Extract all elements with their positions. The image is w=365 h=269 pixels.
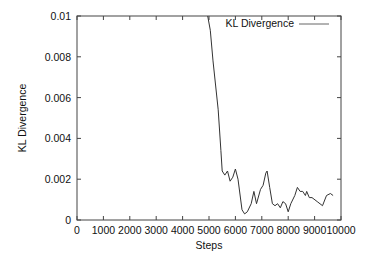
- y-tick-label: 0.002: [45, 173, 71, 185]
- plot-frame: [77, 16, 341, 220]
- y-tick-label: 0.006: [45, 92, 71, 104]
- x-tick-label: 6000: [224, 224, 248, 236]
- x-axis-label: Steps: [196, 239, 223, 251]
- y-axis-label: KL Divergence: [16, 84, 28, 153]
- kl-divergence-chart: 0100020003000400050006000700080009000100…: [0, 0, 365, 269]
- x-tick-label: 8000: [277, 224, 301, 236]
- x-tick-label: 0: [74, 224, 80, 236]
- legend: KL Divergence: [226, 17, 329, 29]
- x-tick-label: 2000: [118, 224, 142, 236]
- y-tick-label: 0.004: [45, 132, 71, 144]
- x-tick-label: 7000: [250, 224, 274, 236]
- x-tick-label: 5000: [197, 224, 221, 236]
- legend-label: KL Divergence: [226, 17, 295, 29]
- y-tick-label: 0.008: [45, 51, 71, 63]
- x-tick-label: 1000: [92, 224, 116, 236]
- x-tick-label: 3000: [145, 224, 169, 236]
- series-line: [208, 16, 333, 214]
- series-layer: [208, 16, 333, 214]
- y-tick-label: 0: [65, 214, 71, 226]
- y-tick-label: 0.01: [51, 10, 72, 22]
- x-tick-label: 10000: [326, 224, 355, 236]
- y-axis-ticks: 00.0020.0040.0060.0080.01: [45, 10, 341, 226]
- x-tick-label: 4000: [171, 224, 195, 236]
- x-axis-ticks: 0100020003000400050006000700080009000100…: [74, 16, 356, 236]
- x-tick-label: 9000: [303, 224, 327, 236]
- plot-border: [77, 16, 341, 220]
